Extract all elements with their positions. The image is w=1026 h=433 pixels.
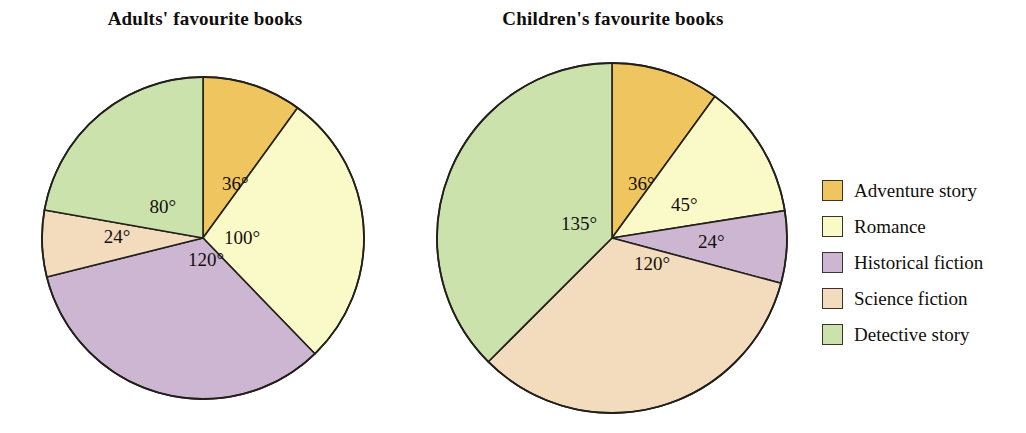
pie-slice[interactable]: Detective story 80° <box>44 77 203 238</box>
legend: Adventure storyRomanceHistorical fiction… <box>822 172 1022 352</box>
slice-angle-label: 24° <box>698 231 725 252</box>
legend-swatch-icon <box>822 288 843 309</box>
legend-item-label: Adventure story <box>854 181 977 200</box>
legend-item[interactable]: Romance <box>822 208 1022 244</box>
legend-swatch-icon <box>822 252 843 273</box>
legend-item-label: Detective story <box>854 325 970 344</box>
slice-angle-label: 100° <box>224 227 260 248</box>
slice-angle-label: 120° <box>188 249 224 270</box>
pie-chart-adults: Adventure story 36°Romance 100°Historica… <box>42 77 364 399</box>
slice-angle-label: 36° <box>628 173 655 194</box>
legend-swatch-icon <box>822 324 843 345</box>
legend-item[interactable]: Science fiction <box>822 280 1022 316</box>
legend-item-label: Romance <box>854 217 926 236</box>
legend-item[interactable]: Historical fiction <box>822 244 1022 280</box>
slice-angle-label: 45° <box>671 194 698 215</box>
legend-swatch-icon <box>822 180 843 201</box>
slice-angle-label: 120° <box>634 253 670 274</box>
slice-angle-label: 80° <box>149 196 176 217</box>
slice-angle-label: 24° <box>104 226 131 247</box>
slice-angle-label: 36° <box>222 173 249 194</box>
legend-item-label: Historical fiction <box>854 253 983 272</box>
slice-angle-label: 135° <box>561 213 597 234</box>
legend-swatch-icon <box>822 216 843 237</box>
pie-chart-children: Adventure story 36°Romance 45°Historical… <box>437 63 787 413</box>
legend-item[interactable]: Adventure story <box>822 172 1022 208</box>
legend-item-label: Science fiction <box>854 289 967 308</box>
legend-item[interactable]: Detective story <box>822 316 1022 352</box>
